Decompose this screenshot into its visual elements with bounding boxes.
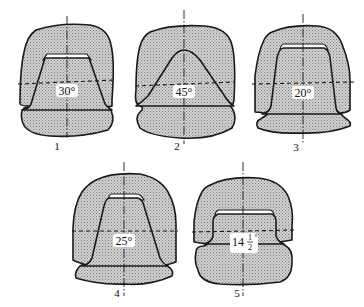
svg-text:2: 2 [248,243,252,252]
profile-2-number: 2 [174,140,180,152]
profile-2-angle-label: 45° [176,85,193,99]
svg-text:1: 1 [248,233,252,242]
svg-text:14: 14 [232,235,244,249]
tooth-profiles-diagram: 30° 1 45° 2 20° 3 25° 4 [0,0,364,307]
profile-3-angle-label: 20° [295,86,312,100]
profile-1: 30° 1 [18,16,116,152]
profile-5: 14 1 2 ° 5 [192,162,296,299]
profile-4: 25° 4 [72,162,178,299]
profile-5-number: 5 [234,287,240,299]
profile-4-number: 4 [114,287,120,299]
profile-3-number: 3 [293,141,299,153]
profile-1-angle-label: 30° [59,84,76,98]
profile-4-angle-label: 25° [116,234,133,248]
profile-3: 20° 3 [252,14,354,153]
profile-1-number: 1 [54,140,60,152]
svg-text:°: ° [254,232,258,242]
profile-2: 45° 2 [135,10,235,152]
